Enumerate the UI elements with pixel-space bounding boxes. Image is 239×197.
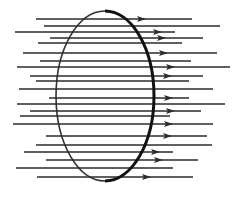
flux-diagram [0,0,239,197]
loop-back-half [56,11,105,181]
loop-front-arc [105,11,154,181]
loop-front-half [105,11,154,181]
loop-back-arc [56,11,105,181]
field-lines [13,16,230,180]
